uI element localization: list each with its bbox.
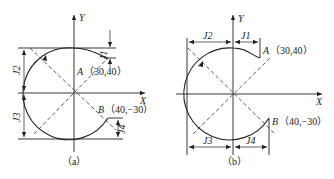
diagram-canvas: Y X J2 J3 J1 J4 A （30,40） B （40,−30） [0, 0, 334, 179]
point-b-name: B [98, 104, 104, 115]
figure-a-caption: （a） [62, 156, 86, 167]
y-axis-label: Y [238, 13, 245, 24]
point-b-coord: （40,−30） [105, 104, 153, 115]
dimension-j2-label: J2 [203, 30, 212, 41]
dimension-j2-label: J2 [11, 66, 22, 75]
figure-b-caption: （b） [222, 156, 247, 167]
y-axis-label: Y [79, 12, 86, 23]
direction-arrow-icon [198, 61, 203, 67]
diagonal-dashed-1 [188, 48, 274, 133]
point-a-coord: （30,40） [84, 66, 127, 77]
point-a-name: A [76, 66, 84, 77]
figure-b: Y X J2 J1 J3 J4 A （30,40） B （40,−30） （b） [176, 13, 327, 167]
dimension-j4-label: J4 [116, 125, 127, 134]
point-a-coord: （30,40） [270, 45, 313, 56]
tool-path-arc [23, 48, 108, 140]
figure-a: Y X J2 J3 J1 J4 A （30,40） B （40,−30） [11, 12, 153, 167]
point-b-name: B [272, 116, 278, 127]
dimension-j1-label: J1 [241, 30, 250, 41]
dimension-j3-label: J3 [203, 135, 212, 146]
point-a-name: A [262, 45, 270, 56]
dimension-j3-label: J3 [11, 113, 22, 122]
diagonal-dashed-2 [193, 58, 270, 134]
dimension-j4-label: J4 [246, 135, 255, 146]
x-axis-label: X [315, 96, 323, 107]
point-b-coord: （40,−30） [279, 116, 327, 127]
dimension-j1-label: J1 [98, 51, 109, 60]
